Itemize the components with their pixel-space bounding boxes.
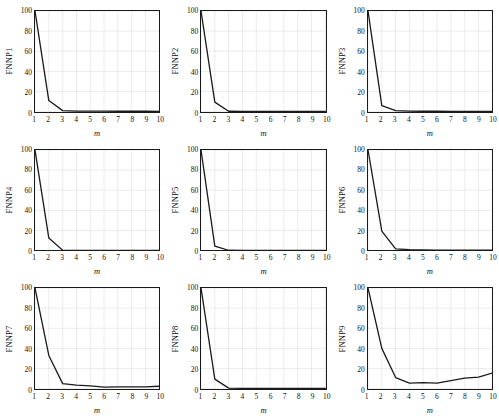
plot-axes-frame xyxy=(367,149,493,252)
y-tick-label: 100 xyxy=(168,6,198,15)
y-tick-label: 20 xyxy=(2,226,32,235)
x-axis-ticks: 12345678910 xyxy=(34,115,160,126)
y-tick-label: 40 xyxy=(168,206,198,215)
plot-panel-fnnp6: FNNP602040608010012345678910m xyxy=(333,139,499,278)
data-series-line xyxy=(35,11,159,112)
y-axis-ticks: 020406080100 xyxy=(333,287,365,390)
y-tick-label: 40 xyxy=(335,206,365,215)
x-axis-label: m xyxy=(367,405,493,415)
y-axis-ticks: 020406080100 xyxy=(333,149,365,252)
y-tick-label: 100 xyxy=(335,144,365,153)
x-axis-ticks: 12345678910 xyxy=(367,253,493,264)
x-axis-label: m xyxy=(367,266,493,276)
y-tick-label: 60 xyxy=(335,47,365,56)
y-tick-label: 20 xyxy=(335,226,365,235)
y-tick-label: 40 xyxy=(2,67,32,76)
plot-axes-frame xyxy=(200,149,326,252)
x-axis-label: m xyxy=(34,128,160,138)
y-tick-label: 20 xyxy=(168,365,198,374)
y-tick-label: 100 xyxy=(2,144,32,153)
x-axis-ticks: 12345678910 xyxy=(34,392,160,403)
y-tick-label: 60 xyxy=(335,324,365,333)
y-tick-label: 60 xyxy=(168,47,198,56)
plot-axes-frame xyxy=(34,149,160,252)
x-tick-label: 10 xyxy=(485,115,499,124)
y-tick-label: 40 xyxy=(2,206,32,215)
y-tick-label: 20 xyxy=(168,88,198,97)
y-tick-label: 100 xyxy=(2,283,32,292)
plot-axes-frame xyxy=(200,287,326,390)
figure-canvas: FNNP102040608010012345678910mFNNP2020406… xyxy=(0,0,499,416)
y-axis-ticks: 020406080100 xyxy=(333,10,365,113)
x-axis-label: m xyxy=(200,405,326,415)
y-tick-label: 60 xyxy=(2,185,32,194)
y-tick-label: 100 xyxy=(168,144,198,153)
plot-panel-fnnp7: FNNP702040608010012345678910m xyxy=(0,277,166,416)
y-tick-label: 80 xyxy=(335,303,365,312)
data-series-line xyxy=(368,288,492,389)
y-tick-label: 80 xyxy=(335,26,365,35)
y-tick-label: 20 xyxy=(168,226,198,235)
x-axis-label: m xyxy=(367,128,493,138)
y-tick-label: 100 xyxy=(335,283,365,292)
plot-axes-frame xyxy=(34,10,160,113)
x-axis-ticks: 12345678910 xyxy=(34,253,160,264)
y-tick-label: 20 xyxy=(2,365,32,374)
data-series-line xyxy=(368,11,492,112)
y-axis-ticks: 020406080100 xyxy=(166,149,198,252)
data-series-line xyxy=(201,288,325,389)
y-tick-label: 100 xyxy=(335,6,365,15)
plot-panel-fnnp8: FNNP802040608010012345678910m xyxy=(166,277,332,416)
y-tick-label: 40 xyxy=(168,67,198,76)
y-axis-ticks: 020406080100 xyxy=(0,10,32,113)
x-axis-ticks: 12345678910 xyxy=(367,392,493,403)
x-axis-label: m xyxy=(34,405,160,415)
y-tick-label: 80 xyxy=(168,165,198,174)
y-tick-label: 60 xyxy=(168,185,198,194)
plot-panel-fnnp4: FNNP402040608010012345678910m xyxy=(0,139,166,278)
y-axis-ticks: 020406080100 xyxy=(0,287,32,390)
y-tick-label: 60 xyxy=(168,324,198,333)
y-tick-label: 80 xyxy=(168,303,198,312)
x-axis-ticks: 12345678910 xyxy=(367,115,493,126)
y-tick-label: 60 xyxy=(335,185,365,194)
y-axis-ticks: 020406080100 xyxy=(0,149,32,252)
y-tick-label: 60 xyxy=(2,47,32,56)
y-tick-label: 40 xyxy=(335,67,365,76)
plot-axes-frame xyxy=(367,10,493,113)
y-tick-label: 40 xyxy=(2,344,32,353)
plot-panel-fnnp5: FNNP502040608010012345678910m xyxy=(166,139,332,278)
y-tick-label: 80 xyxy=(2,165,32,174)
x-tick-label: 10 xyxy=(485,253,499,262)
x-axis-ticks: 12345678910 xyxy=(200,115,326,126)
y-tick-label: 80 xyxy=(168,26,198,35)
plot-axes-frame xyxy=(34,287,160,390)
x-axis-label: m xyxy=(200,128,326,138)
y-tick-label: 20 xyxy=(335,88,365,97)
y-axis-ticks: 020406080100 xyxy=(166,287,198,390)
plot-panel-fnnp9: FNNP902040608010012345678910m xyxy=(333,277,499,416)
x-axis-label: m xyxy=(34,266,160,276)
x-axis-ticks: 12345678910 xyxy=(200,253,326,264)
y-tick-label: 40 xyxy=(335,344,365,353)
y-tick-label: 80 xyxy=(335,165,365,174)
x-axis-label: m xyxy=(200,266,326,276)
y-tick-label: 40 xyxy=(168,344,198,353)
plot-panel-fnnp3: FNNP302040608010012345678910m xyxy=(333,0,499,139)
y-tick-label: 80 xyxy=(2,26,32,35)
plot-axes-frame xyxy=(367,287,493,390)
y-tick-label: 20 xyxy=(335,365,365,374)
data-series-line xyxy=(368,150,492,251)
y-tick-label: 100 xyxy=(2,6,32,15)
x-axis-ticks: 12345678910 xyxy=(200,392,326,403)
y-axis-ticks: 020406080100 xyxy=(166,10,198,113)
y-tick-label: 60 xyxy=(2,324,32,333)
y-tick-label: 20 xyxy=(2,88,32,97)
y-tick-label: 100 xyxy=(168,283,198,292)
plot-axes-frame xyxy=(200,10,326,113)
data-series-line xyxy=(35,150,159,251)
data-series-line xyxy=(201,150,325,251)
y-tick-label: 80 xyxy=(2,303,32,312)
plot-panel-fnnp2: FNNP202040608010012345678910m xyxy=(166,0,332,139)
plot-panel-fnnp1: FNNP102040608010012345678910m xyxy=(0,0,166,139)
